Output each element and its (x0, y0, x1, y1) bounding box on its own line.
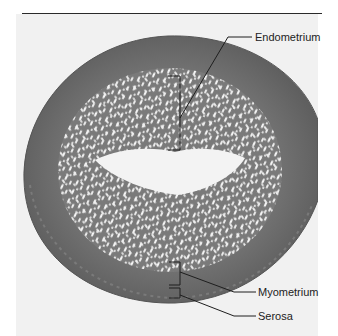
label-myometrium: Myometrium (258, 287, 319, 298)
label-endometrium: Endometrium (255, 32, 320, 43)
label-serosa: Serosa (258, 311, 293, 322)
